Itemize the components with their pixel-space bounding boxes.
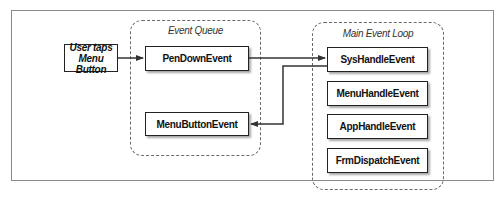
sys-handle-event-node: SysHandleEvent <box>327 47 428 72</box>
pen-down-event-node: PenDownEvent <box>145 46 249 71</box>
event-queue-title: Event Queue <box>131 25 260 36</box>
main-event-loop-title: Main Event Loop <box>313 28 443 39</box>
user-input-line2: Menu Button <box>65 53 117 75</box>
frm-dispatch-event-node: FrmDispatchEvent <box>327 148 428 173</box>
user-input-line1: User taps <box>70 42 113 53</box>
app-handle-event-node: AppHandleEvent <box>327 114 428 139</box>
user-input-node: User taps Menu Button <box>64 44 118 72</box>
menu-handle-event-node: MenuHandleEvent <box>327 81 428 106</box>
menu-button-event-node: MenuButtonEvent <box>145 112 249 136</box>
